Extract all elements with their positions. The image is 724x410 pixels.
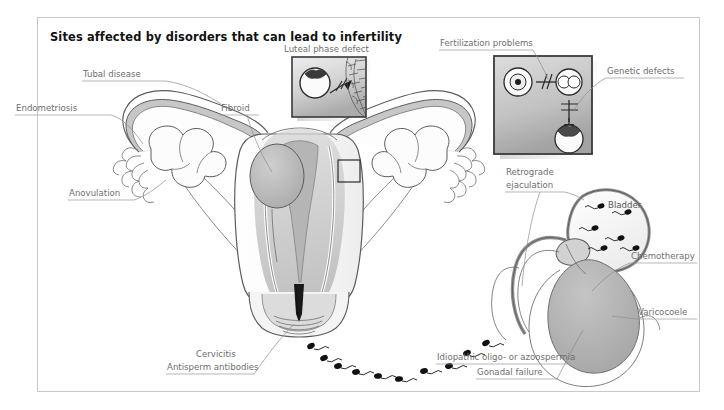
inset-luteal-phase-defect bbox=[292, 57, 371, 121]
label-luteal-phase-defect: Luteal phase defect bbox=[284, 44, 370, 54]
page-title: Sites affected by disorders that can lea… bbox=[50, 30, 402, 44]
sperm bbox=[395, 376, 417, 382]
label-luteal-phase-defect-text: Luteal phase defect bbox=[284, 44, 370, 54]
label-endometriosis-text: Endometriosis bbox=[16, 103, 78, 113]
label-endometriosis: Endometriosis bbox=[15, 103, 143, 144]
label-retrograde-line2: ejaculation bbox=[506, 180, 553, 190]
label-retrograde-line1: Retrograde bbox=[506, 167, 554, 177]
label-varicocoele-text: Varicocoele bbox=[638, 307, 687, 317]
sperm bbox=[444, 362, 467, 369]
label-bladder: Bladder bbox=[608, 200, 642, 210]
figure-canvas: Sites affected by disorders that can lea… bbox=[0, 0, 724, 410]
label-antisperm-antibodies-text: Antisperm antibodies bbox=[167, 362, 259, 372]
right-fimbriae bbox=[444, 148, 485, 203]
pronucleus bbox=[515, 79, 521, 85]
fibroid-mass bbox=[250, 144, 304, 208]
label-idiopathic-text: Idiopathic oligo- or azoospermia bbox=[437, 352, 575, 362]
label-anovulation: Anovulation bbox=[68, 180, 166, 200]
blastomere-right bbox=[568, 76, 580, 88]
label-gonadal-failure-text: Gonadal failure bbox=[477, 367, 543, 377]
label-tubal-disease-text: Tubal disease bbox=[82, 69, 141, 79]
sperm bbox=[419, 367, 442, 374]
female-reproductive-tract bbox=[113, 91, 485, 337]
label-bladder-text: Bladder bbox=[608, 200, 642, 210]
sperm bbox=[374, 373, 396, 380]
sperm bbox=[319, 354, 342, 362]
label-fibroid-text: Fibroid bbox=[221, 103, 250, 113]
label-cervicitis: Cervicitis bbox=[196, 349, 236, 359]
label-anovulation-text: Anovulation bbox=[69, 188, 120, 198]
sperm bbox=[481, 339, 504, 348]
infertility-diagram: Sites affected by disorders that can lea… bbox=[0, 0, 724, 410]
label-fertilization-problems-text: Fertilization problems bbox=[440, 38, 533, 48]
inset-fertilization-genetic bbox=[494, 56, 598, 159]
sperm bbox=[306, 342, 329, 351]
label-idiopathic-oligo-azoospermia: Idiopathic oligo- or azoospermia bbox=[436, 352, 575, 364]
label-cervicitis-text: Cervicitis bbox=[196, 349, 236, 359]
label-tubal-disease: Tubal disease bbox=[82, 69, 221, 104]
sperm bbox=[352, 368, 374, 375]
sperm bbox=[333, 362, 356, 370]
label-chemotherapy-text: Chemotherapy bbox=[631, 251, 695, 261]
label-genetic-defects-text: Genetic defects bbox=[607, 66, 675, 76]
